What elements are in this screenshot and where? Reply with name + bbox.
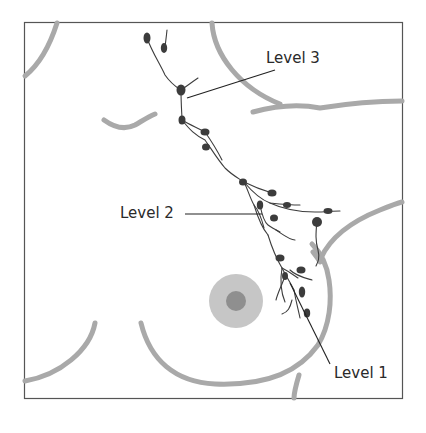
lymph-node bbox=[297, 267, 306, 274]
lymph-node bbox=[270, 215, 278, 222]
lymph-node bbox=[201, 129, 210, 136]
body-outline bbox=[25, 23, 402, 398]
lymph-node bbox=[177, 85, 186, 96]
lymph-node bbox=[299, 287, 305, 298]
label-level-3: Level 3 bbox=[266, 51, 320, 66]
diagram-frame bbox=[25, 23, 403, 399]
nipple bbox=[226, 291, 246, 311]
lymph-node bbox=[202, 144, 210, 151]
lymph-node bbox=[276, 255, 285, 262]
lymph-node bbox=[179, 116, 186, 125]
left-breast-curve bbox=[25, 323, 95, 381]
leader-lines bbox=[185, 70, 330, 364]
body-side-line bbox=[294, 375, 299, 398]
lymph-node bbox=[324, 208, 333, 214]
lymph-node bbox=[144, 33, 151, 44]
lymph-node bbox=[312, 217, 322, 227]
label-level-2: Level 2 bbox=[120, 206, 174, 221]
lymph-node bbox=[283, 202, 291, 208]
left-shoulder-curve bbox=[25, 23, 57, 76]
lymph-node bbox=[257, 201, 263, 210]
clavicle-stroke bbox=[104, 114, 155, 128]
label-level-1: Level 1 bbox=[334, 366, 388, 381]
lymph-node bbox=[268, 190, 277, 197]
lymph-vessels bbox=[147, 30, 340, 318]
lymph-node bbox=[282, 272, 288, 280]
arm-lower-curve bbox=[321, 202, 402, 258]
lymph-node bbox=[161, 43, 167, 53]
lymph-node-diagram: Level 3 Level 2 Level 1 bbox=[0, 0, 426, 433]
lymph-node bbox=[239, 179, 247, 186]
